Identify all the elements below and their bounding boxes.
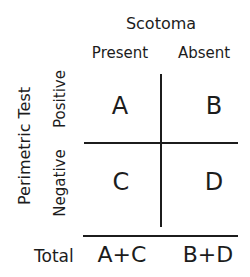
cell-b: B xyxy=(184,92,244,120)
row-header-positive: Positive xyxy=(51,70,69,128)
horizontal-divider xyxy=(84,142,238,144)
total-present: A+C xyxy=(82,242,162,267)
cell-a: A xyxy=(90,92,150,120)
totals-divider xyxy=(83,235,238,237)
total-absent: B+D xyxy=(168,242,248,267)
column-axis-title: Scotoma xyxy=(126,14,196,33)
row-axis-title: Perimetric Test xyxy=(15,87,34,205)
cell-c: C xyxy=(91,168,151,196)
vertical-divider xyxy=(160,74,162,227)
total-label: Total xyxy=(34,246,74,266)
column-header-absent: Absent xyxy=(178,44,230,62)
row-header-negative: Negative xyxy=(51,149,69,216)
column-header-present: Present xyxy=(92,44,148,62)
cell-d: D xyxy=(184,168,244,196)
